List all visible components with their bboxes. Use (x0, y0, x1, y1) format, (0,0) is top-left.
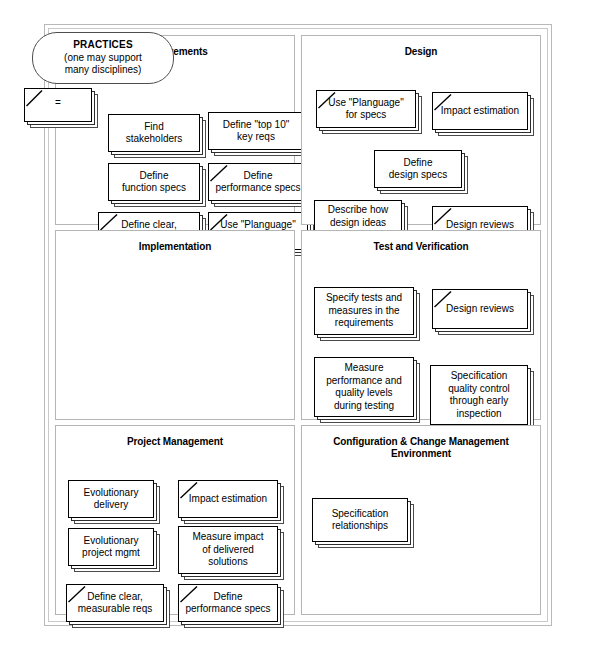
practice-card-label: Define design specs (385, 157, 451, 182)
card-sheet-front: Define performance specs (178, 584, 278, 622)
repeated-legend-symbol: = (55, 97, 61, 108)
practices-matrix-diagram: RequirementsFind stakeholdersDefine "top… (44, 24, 552, 626)
practices-legend-line-2: (one may support (64, 52, 142, 65)
card-sheet-front: Design reviews (432, 289, 528, 329)
practice-card[interactable]: Define performance specs (178, 584, 278, 622)
panel-implementation: Implementation (55, 230, 295, 420)
panel-body-test-and-verification: Specify tests and measures in the requir… (302, 253, 540, 441)
panel-body-design: Use "Planguage" for specsImpact estimati… (302, 58, 540, 246)
practice-card[interactable]: Find stakeholders (108, 114, 200, 152)
panel-configuration-change-management: Configuration & Change Management Enviro… (301, 425, 541, 615)
panel-body-project-management: Evolutionary deliveryImpact estimationEv… (56, 448, 294, 636)
practice-card-label: Specify tests and measures in the requir… (322, 292, 406, 330)
panel-title-project-management: Project Management (56, 426, 294, 448)
card-sheet-front: Evolutionary project mgmt (68, 528, 154, 566)
practice-card-label: Evolutionary project mgmt (78, 535, 144, 560)
practice-card[interactable]: Specify tests and measures in the requir… (314, 287, 414, 335)
practice-card-label: Define clear, measurable reqs (74, 591, 156, 616)
practice-card[interactable]: Evolutionary delivery (68, 480, 154, 518)
practice-card-label: Define "top 10" key reqs (219, 119, 294, 144)
practices-legend-line-3: many disciplines) (65, 64, 142, 77)
panel-title-configuration-change-management: Configuration & Change Management Enviro… (302, 426, 540, 460)
practice-card[interactable]: Design reviews (432, 289, 528, 329)
practice-card[interactable]: Use "Planguage" for specs (316, 90, 416, 128)
card-sheet-front: Define clear, measurable reqs (66, 584, 164, 622)
practice-card[interactable]: Define performance specs (208, 163, 308, 201)
repeated-legend-meaning: repeated (38, 121, 77, 122)
practice-card-label: Find stakeholders (122, 121, 187, 146)
practice-card-label: Impact estimation (185, 493, 271, 506)
practice-card[interactable]: Impact estimation (178, 480, 278, 518)
practices-legend-line-1: PRACTICES (73, 39, 133, 52)
card-sheet-front: Measure impact of delivered solutions (178, 526, 278, 574)
practice-card[interactable]: Define "top 10" key reqs (208, 112, 304, 150)
card-sheet-front: Find stakeholders (108, 114, 200, 152)
panel-design: DesignUse "Planguage" for specsImpact es… (301, 35, 541, 225)
card-sheet-front: Evolutionary delivery (68, 480, 154, 518)
practice-card-label: Measure performance and quality levels d… (322, 362, 406, 412)
panel-test-and-verification: Test and VerificationSpecify tests and m… (301, 230, 541, 420)
card-sheet-front: Define performance specs (208, 163, 308, 201)
practice-card-label: Measure impact of delivered solutions (188, 531, 267, 569)
practice-card[interactable]: Impact estimation (432, 92, 528, 130)
practice-card-label: Define function specs (118, 170, 190, 195)
card-sheet-front: Define design specs (374, 150, 462, 188)
card-sheet-front: Specification quality control through ea… (430, 365, 528, 425)
practice-card[interactable]: Measure performance and quality levels d… (314, 357, 414, 417)
practice-card-label: Specification relationships (328, 508, 393, 533)
card-sheet-front: Use "Planguage" for specs (316, 90, 416, 128)
card-sheet-front: Impact estimation (178, 480, 278, 518)
practice-card[interactable]: Specification quality control through ea… (430, 365, 528, 425)
card-sheet-front: Measure performance and quality levels d… (314, 357, 414, 417)
card-sheet-front: = repeated (24, 88, 92, 122)
practice-card[interactable]: Measure impact of delivered solutions (178, 526, 278, 574)
practice-card[interactable]: Define design specs (374, 150, 462, 188)
discipline-panel-grid: RequirementsFind stakeholdersDefine "top… (55, 35, 541, 615)
repeated-legend-key-label: = repeated (34, 88, 81, 122)
practice-card-label: Define performance specs (181, 591, 274, 616)
card-sheet-front: Specification relationships (312, 498, 408, 542)
panel-title-design: Design (302, 36, 540, 58)
practice-card[interactable]: Specification relationships (312, 498, 408, 542)
practice-card-label: Define performance specs (211, 170, 304, 195)
card-sheet-front: Specify tests and measures in the requir… (314, 287, 414, 335)
card-sheet-front: Impact estimation (432, 92, 528, 130)
panel-body-requirements: Find stakeholdersDefine "top 10" key req… (56, 58, 294, 246)
panel-project-management: Project ManagementEvolutionary deliveryI… (55, 425, 295, 615)
practice-card[interactable]: Define function specs (108, 163, 200, 201)
panel-title-implementation: Implementation (56, 231, 294, 253)
practice-card-label: Impact estimation (437, 105, 523, 118)
repeated-legend-key-card: = repeated (24, 88, 92, 122)
practice-card-label: Specification quality control through ea… (444, 370, 514, 420)
practice-card[interactable]: Define clear, measurable reqs (66, 584, 164, 622)
practice-card[interactable]: Evolutionary project mgmt (68, 528, 154, 566)
panel-body-implementation (56, 253, 294, 441)
card-sheet-front: Define function specs (108, 163, 200, 201)
practice-card-label: Design reviews (442, 303, 518, 316)
panel-title-test-and-verification: Test and Verification (302, 231, 540, 253)
practice-card-label: Evolutionary delivery (79, 487, 142, 512)
practice-card-label: Use "Planguage" for specs (324, 97, 407, 122)
panel-body-configuration-change-management: Specification relationships (302, 460, 540, 648)
card-sheet-front: Define "top 10" key reqs (208, 112, 304, 150)
practices-legend-bubble: PRACTICES (one may support many discipli… (32, 32, 174, 84)
